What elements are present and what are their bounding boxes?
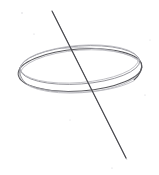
paper-speck xyxy=(150,40,151,41)
paper-speck xyxy=(144,94,145,95)
paper-speck xyxy=(33,33,34,34)
paper-background xyxy=(0,0,159,175)
figure-root xyxy=(0,0,159,175)
sketch-canvas xyxy=(0,0,159,175)
paper-speck xyxy=(111,167,112,168)
paper-speck xyxy=(21,12,22,13)
paper-speck xyxy=(70,120,71,121)
